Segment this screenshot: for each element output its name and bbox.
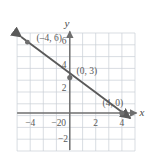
x-tick-label-0: 0 <box>61 118 66 128</box>
point-label-neg4-6: (–4, 6) <box>37 33 62 44</box>
x-tick-label-neg2: −2 <box>51 118 61 128</box>
y-tick-label-6: 6 <box>62 36 67 46</box>
coordinate-plane-figure: y x −4 −2 0 2 4 6 4 2 −2 (–4, 6) (0, 3) … <box>0 0 149 159</box>
point-label-0-3: (0, 3) <box>77 66 98 77</box>
x-tick-label-2: 2 <box>93 118 98 128</box>
graph-screenshot: y x −4 −2 0 2 4 6 4 2 −2 (–4, 6) (0, 3) … <box>0 0 149 159</box>
data-point-neg4-6 <box>25 40 30 45</box>
data-point-4-0 <box>119 110 124 115</box>
y-tick-label-neg2: −2 <box>58 134 68 144</box>
point-label-4-0: (4, 0) <box>103 98 124 109</box>
x-tick-label-4: 4 <box>120 118 125 128</box>
x-tick-label-neg4: −4 <box>25 118 35 128</box>
y-tick-label-2: 2 <box>62 83 67 93</box>
plot-background <box>0 0 149 159</box>
x-axis-label: x <box>139 106 145 118</box>
data-point-0-3 <box>67 75 72 80</box>
y-axis-label: y <box>64 17 70 29</box>
